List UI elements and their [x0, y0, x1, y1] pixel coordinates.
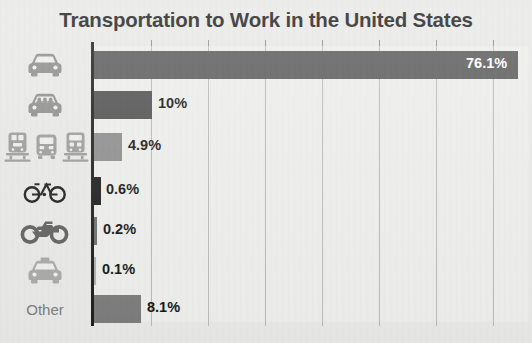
bus-icon	[33, 131, 60, 163]
bar-value-label: 0.1%	[102, 261, 135, 277]
bar-value-label: 76.1%	[466, 55, 507, 71]
subway-icon	[62, 131, 89, 163]
bar-value-label: 0.2%	[103, 221, 136, 237]
taxi-icon	[25, 257, 65, 285]
chart-row: 0.1%	[0, 252, 532, 290]
bar	[93, 177, 101, 205]
category-icon-cell	[0, 46, 90, 84]
value-axis	[91, 42, 94, 326]
bar-value-label: 0.6%	[106, 181, 139, 197]
category-label-other: Other	[26, 301, 64, 318]
chart-row: 10%	[0, 86, 532, 124]
train-icon	[4, 131, 31, 163]
bar	[93, 91, 152, 119]
category-icon-cell	[0, 212, 90, 250]
bicycle-icon	[22, 178, 68, 204]
bar-value-label: 10%	[158, 95, 187, 111]
bar	[93, 217, 97, 245]
chart-row: 76.1%	[0, 46, 532, 84]
category-icon-cell	[0, 172, 90, 210]
carpool-car-icon	[25, 92, 65, 118]
chart-row: Other 8.1%	[0, 290, 532, 328]
category-icon-cell	[0, 86, 90, 124]
motorcycle-icon	[19, 217, 71, 245]
bar-value-label: 8.1%	[147, 299, 180, 315]
bar	[93, 133, 122, 161]
bar	[93, 295, 141, 323]
chart-row: 4.9%	[0, 128, 532, 166]
category-icon-cell	[0, 252, 90, 290]
chart-row: 0.6%	[0, 172, 532, 210]
chart-figure: Transportation to Work in the United Sta…	[0, 0, 532, 343]
chart-title: Transportation to Work in the United Sta…	[0, 8, 532, 32]
car-icon	[25, 52, 65, 78]
category-icon-cell	[0, 128, 92, 166]
chart-row: 0.2%	[0, 212, 532, 250]
bar-value-label: 4.9%	[128, 137, 161, 153]
category-icon-cell: Other	[0, 290, 90, 328]
bar	[93, 51, 518, 79]
